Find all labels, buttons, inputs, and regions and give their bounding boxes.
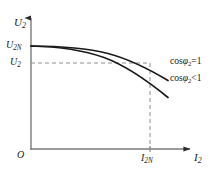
chart-canvas: [0, 0, 213, 178]
curve-label-eq-prefix: cos: [170, 56, 183, 66]
x-axis-label: I2: [194, 152, 202, 165]
y-axis-label-sub: 2: [22, 21, 26, 30]
chart-figure: U2 I2 U2N U2 O I2N cosφ2=1 cosφ2<1: [0, 0, 213, 178]
curve-label-lt-prefix: cos: [170, 73, 183, 83]
y-tick-u2n-sub: 2N: [13, 44, 21, 52]
curve-label-cos-phi-equals-1: cosφ2=1: [170, 57, 201, 67]
curve-cos-phi-equals-1: [31, 46, 168, 81]
origin-label: O: [17, 150, 24, 160]
y-axis-label-base: U: [14, 16, 22, 28]
curve-cos-phi-less-than-1: [31, 46, 168, 98]
y-tick-u2-sub: 2: [17, 61, 21, 69]
x-axis-label-sub: 2: [198, 156, 202, 165]
y-tick-label-u2: U2: [10, 57, 21, 69]
x-tick-i2n-sub: 2N: [144, 157, 152, 165]
x-tick-label-i2n: I2N: [141, 153, 153, 165]
y-axis-label: U2: [14, 17, 26, 30]
y-tick-label-u2n: U2N: [6, 40, 22, 52]
curve-label-lt-suffix: <1: [191, 73, 201, 83]
curve-label-eq-suffix: =1: [191, 56, 201, 66]
curve-label-cos-phi-less-than-1: cosφ2<1: [170, 74, 201, 84]
